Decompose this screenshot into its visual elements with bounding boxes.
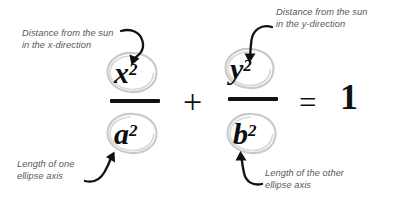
fraction-bar-left (110, 99, 160, 103)
annotation-label-y-line1: Distance from the sun (276, 7, 367, 17)
annotation-label-b: Length of the otherellipse axis (265, 167, 344, 192)
right-hand-side-value: 1 (340, 79, 358, 115)
annotation-label-x: Distance from the sunin the x-direction (22, 27, 113, 52)
numerator-right-term: y2 (230, 52, 252, 86)
annotation-label-a: Length of oneellipse axis (17, 158, 75, 183)
numerator-left-term: x2 (114, 56, 138, 90)
numerator-left-base: x (114, 56, 129, 89)
numerator-right-exponent: 2 (243, 56, 252, 75)
arrow-b (236, 151, 263, 185)
annotation-label-y-line2: in the y-direction (276, 19, 345, 29)
numerator-right-base: y (230, 52, 243, 85)
diagram-canvas: Distance from the sunin the x-direction … (0, 0, 398, 208)
annotation-label-x-line2: in the x-direction (22, 40, 91, 50)
annotation-label-y: Distance from the sunin the y-direction (276, 6, 367, 31)
denominator-right-term: b2 (233, 117, 257, 151)
annotation-label-a-line1: Length of one (17, 159, 75, 169)
denominator-left-exponent: 2 (129, 121, 138, 140)
operator-plus: + (183, 85, 202, 119)
denominator-left-term: a2 (114, 117, 138, 151)
denominator-left-base: a (114, 117, 129, 150)
denominator-right-base: b (233, 117, 248, 150)
annotation-label-x-line1: Distance from the sun (22, 28, 113, 38)
annotation-label-b-line2: ellipse axis (265, 180, 311, 190)
arrow-a (85, 152, 115, 182)
annotation-label-b-line1: Length of the other (265, 168, 344, 178)
operator-equals: = (299, 87, 316, 118)
denominator-right-exponent: 2 (248, 121, 257, 140)
numerator-left-exponent: 2 (129, 60, 138, 79)
fraction-bar-right (228, 97, 278, 101)
annotation-label-a-line2: ellipse axis (17, 171, 63, 181)
